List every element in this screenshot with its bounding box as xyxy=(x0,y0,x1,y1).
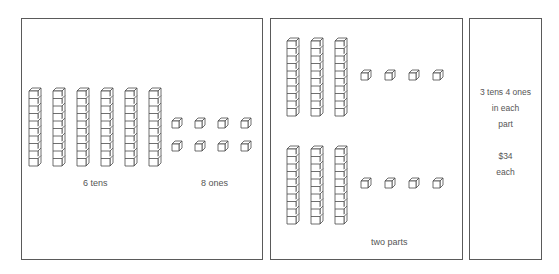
ten-rod xyxy=(53,88,65,166)
ten-rod xyxy=(311,146,323,224)
one-cube xyxy=(241,141,251,151)
ten-rod xyxy=(311,38,323,116)
one-cube xyxy=(385,70,395,80)
one-cube xyxy=(409,70,419,80)
result-line-3: part xyxy=(469,116,542,132)
ten-rod xyxy=(101,88,113,166)
label-two-parts: two parts xyxy=(371,237,408,247)
one-cube xyxy=(361,70,371,80)
result-text: 3 tens 4 ones in each part $34 each xyxy=(469,84,542,180)
one-cube xyxy=(195,141,205,151)
one-cube xyxy=(433,70,443,80)
result-line-5: each xyxy=(469,164,542,180)
result-line-4: $34 xyxy=(469,148,542,164)
ten-rod xyxy=(335,146,347,224)
result-line-1: 3 tens 4 ones xyxy=(469,84,542,100)
one-cube xyxy=(172,118,182,128)
one-cube xyxy=(433,178,443,188)
one-cube xyxy=(172,141,182,151)
ten-rod xyxy=(287,38,299,116)
ten-rod xyxy=(287,146,299,224)
one-cube xyxy=(218,118,228,128)
label-6-tens: 6 tens xyxy=(83,178,108,188)
ten-rod xyxy=(335,38,347,116)
result-line-2: in each xyxy=(469,100,542,116)
ten-rod xyxy=(149,88,161,166)
one-cube xyxy=(409,178,419,188)
one-cube xyxy=(218,141,228,151)
one-cube xyxy=(361,178,371,188)
label-8-ones: 8 ones xyxy=(201,178,228,188)
ten-rod xyxy=(125,88,137,166)
ten-rod xyxy=(29,88,41,166)
one-cube xyxy=(241,118,251,128)
one-cube xyxy=(195,118,205,128)
ten-rod xyxy=(77,88,89,166)
one-cube xyxy=(385,178,395,188)
